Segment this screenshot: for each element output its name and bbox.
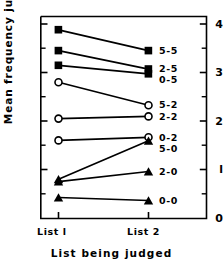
marker-0-2-list1 [55,137,62,144]
series-label-0-2: 0-2 [159,133,178,143]
marker-0-5-list2 [145,70,153,78]
markers-triangles [54,137,153,205]
x-tick-label-list-1: List l [37,226,67,237]
markers-circles [55,79,152,144]
marker-5-2-list2 [145,102,152,109]
series-label-0-5: 0-5 [159,75,178,85]
marker-2-2-list2 [145,113,152,120]
series-label-0-0: 0-0 [159,196,178,206]
marker-5-2-list1 [55,79,62,86]
series-label-5-0: 5-0 [159,144,178,154]
chart-figure: Mean frequency judgment 4 3 2 l 0 [0,0,223,272]
series-label-2-0: 2-0 [159,167,178,177]
plot-area [0,0,223,272]
series-label-5-2: 5-2 [159,100,178,110]
series-line-2-2 [59,116,149,118]
series-line-0-2 [59,137,149,140]
marker-2-2-list1 [55,115,62,122]
series-line-5-5 [59,30,149,51]
series-label-2-2: 2-2 [159,112,178,122]
series-line-5-2 [59,82,149,105]
series-label-2-5: 2-5 [159,64,178,74]
x-axis-title: List being judged [0,247,223,259]
marker-0-5-list1 [55,62,63,70]
marker-2-5-list1 [55,47,63,55]
x-major-ticks [59,212,149,219]
series-lines [59,30,149,201]
x-tick-label-list-2: List 2 [127,226,160,237]
series-label-5-5: 5-5 [159,46,178,56]
series-line-0-0 [59,198,149,201]
marker-5-5-list2 [145,47,153,55]
marker-5-5-list1 [55,26,63,34]
